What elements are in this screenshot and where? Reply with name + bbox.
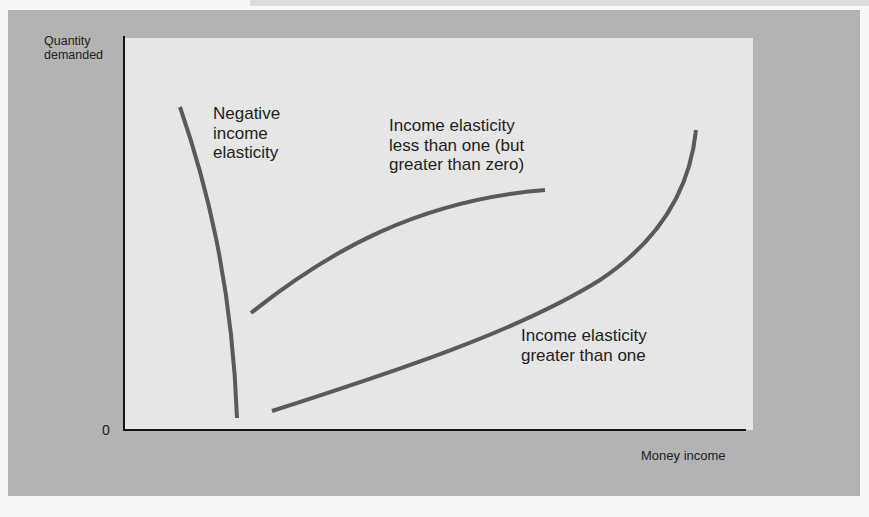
label-line: less than one (but [389,136,524,156]
label-elasticity-greater-than-one: Income elasticity greater than one [521,326,647,365]
label-line: Income elasticity [389,116,524,136]
label-line: greater than one [521,346,647,366]
x-axis-label: Money income [641,449,726,464]
label-line: Negative [213,104,280,124]
label-line: greater than zero) [389,155,524,175]
origin-label: 0 [102,422,110,438]
label-line: Income elasticity [521,326,647,346]
label-line: income [213,124,280,144]
label-line: elasticity [213,143,280,163]
label-elasticity-less-than-one: Income elasticity less than one (but gre… [389,116,524,175]
y-axis-label-line1: Quantity [44,34,103,48]
y-axis-label-line2: demanded [44,48,103,62]
y-axis-label: Quantity demanded [44,34,103,63]
plot-svg [0,0,869,517]
label-negative-elasticity: Negative income elasticity [213,104,280,163]
curve-elasticity-less-than-one [251,190,545,313]
